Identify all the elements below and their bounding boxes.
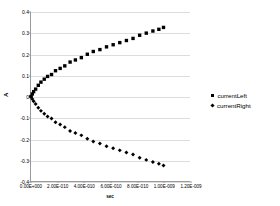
data-point <box>50 73 53 76</box>
y-tick-label: 0 <box>26 95 29 100</box>
data-point <box>111 43 114 46</box>
data-point <box>79 133 83 137</box>
data-point <box>86 53 89 56</box>
data-point <box>105 144 109 148</box>
diamond-marker-icon <box>210 103 214 107</box>
y-tick-label: 0.2 <box>22 52 29 57</box>
data-point <box>58 67 61 70</box>
legend-item-currentRight[interactable]: currentRight <box>211 102 251 109</box>
y-axis-title: A <box>3 93 9 97</box>
x-tick-label: 1.20E-009 <box>180 184 201 189</box>
data-point <box>46 75 49 78</box>
data-point <box>145 31 148 34</box>
x-tick-mark <box>191 181 192 183</box>
data-point <box>43 77 46 80</box>
data-point <box>162 26 165 29</box>
x-tick-label: 1.00E-009 <box>154 184 175 189</box>
y-tick-label: -0.3 <box>20 158 29 163</box>
x-tick-mark <box>57 181 58 183</box>
data-point <box>98 141 102 145</box>
data-point <box>144 158 148 162</box>
plot-area: 0.40.30.20.10-0.1-0.2-0.3-0.4 0.00E+0002… <box>30 12 190 182</box>
series-currentRight <box>29 95 165 168</box>
data-point <box>138 34 141 37</box>
data-point <box>46 115 50 119</box>
chart-legend: currentLeftcurrentRight <box>211 92 251 109</box>
data-point <box>118 148 122 152</box>
legend-item-currentLeft[interactable]: currentLeft <box>211 92 251 99</box>
data-point <box>131 37 134 40</box>
data-point <box>98 48 101 51</box>
series-currentLeft <box>29 26 165 98</box>
data-point <box>151 160 155 164</box>
data-point <box>91 140 95 144</box>
data-point <box>74 58 77 61</box>
x-tick-mark <box>31 181 32 183</box>
data-point <box>42 112 46 116</box>
data-point <box>85 137 89 141</box>
data-point <box>138 156 142 160</box>
y-tick-label: -0.2 <box>20 137 29 142</box>
square-marker-icon <box>211 94 214 97</box>
data-point <box>39 80 42 83</box>
data-point <box>39 109 43 113</box>
data-point <box>124 150 128 154</box>
data-point <box>36 106 40 110</box>
data-point <box>162 164 166 168</box>
y-tick-label: 0.1 <box>22 73 29 78</box>
x-tick-label: 0.00E+000 <box>20 184 42 189</box>
legend-label: currentLeft <box>217 92 247 99</box>
data-point <box>111 146 115 150</box>
x-tick-label: 4.00E-010 <box>74 184 95 189</box>
data-point <box>54 120 58 124</box>
legend-label: currentRight <box>217 102 251 109</box>
x-tick-label: 6.00E-010 <box>100 184 121 189</box>
data-point <box>63 64 66 67</box>
data-point <box>50 116 54 120</box>
chart-container: 0.40.30.20.10-0.1-0.2-0.3-0.4 0.00E+0002… <box>0 0 280 206</box>
data-point <box>80 56 83 59</box>
data-point <box>37 84 40 87</box>
data-point <box>73 131 77 135</box>
y-tick-label: -0.1 <box>20 116 29 121</box>
data-point <box>125 39 128 42</box>
x-tick-mark <box>164 181 165 183</box>
data-point <box>92 50 95 53</box>
x-axis-title: sec <box>30 194 190 199</box>
data-point <box>118 41 121 44</box>
data-point <box>68 60 71 63</box>
data-point <box>157 28 160 31</box>
data-point <box>131 153 135 157</box>
data-point <box>68 129 72 133</box>
x-tick-mark <box>84 181 85 183</box>
data-point <box>34 87 37 90</box>
data-point <box>54 69 57 72</box>
data-point <box>105 45 108 48</box>
data-point <box>58 123 62 127</box>
y-tick-label: 0.4 <box>22 10 29 15</box>
data-point <box>63 125 67 129</box>
data-points-layer <box>31 12 190 181</box>
data-point <box>157 162 161 166</box>
x-tick-label: 2.00E-010 <box>47 184 68 189</box>
x-tick-label: 8.00E-010 <box>127 184 148 189</box>
x-tick-mark <box>111 181 112 183</box>
data-point <box>151 29 154 32</box>
y-tick-label: 0.3 <box>22 31 29 36</box>
x-tick-mark <box>137 181 138 183</box>
